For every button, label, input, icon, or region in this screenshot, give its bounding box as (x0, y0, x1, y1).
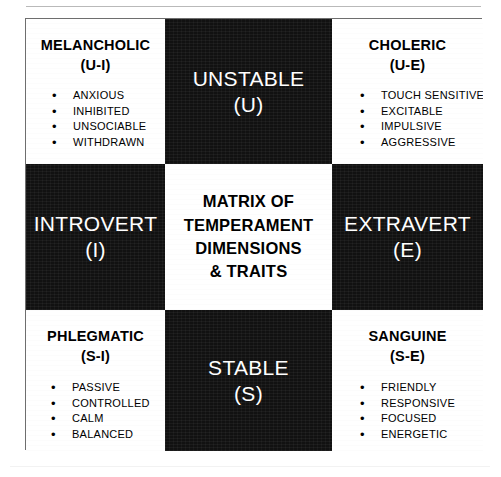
trait-label: RESPONSIVE (381, 397, 455, 409)
bullet-icon: • (360, 119, 365, 135)
unstable-label: UNSTABLE (193, 66, 305, 92)
bullet-icon: • (51, 411, 56, 427)
list-item: •FOCUSED (338, 411, 477, 427)
bullet-icon: • (51, 380, 56, 396)
center-title-text: MATRIX OF TEMPERAMENT DIMENSIONS & TRAIT… (184, 190, 314, 284)
melancholic-code: (U-I) (32, 56, 159, 76)
list-item: •CALM (32, 411, 159, 427)
introvert-code: (I) (85, 237, 106, 263)
trait-label: IMPULSIVE (381, 120, 442, 132)
scan-artifact-top-line (26, 6, 481, 7)
list-item: •RESPONSIVE (338, 396, 477, 412)
quadrant-sanguine: SANGUINE (S-E) •FRIENDLY •RESPONSIVE •FO… (332, 310, 483, 451)
melancholic-title: MELANCHOLIC (32, 36, 159, 56)
list-item: •PASSIVE (32, 380, 159, 396)
bullet-icon: • (360, 380, 365, 396)
phlegmatic-code: (S-I) (32, 347, 159, 367)
center-title-line: & TRAITS (184, 260, 314, 283)
bullet-icon: • (52, 135, 57, 151)
list-item: •FRIENDLY (338, 380, 477, 396)
trait-label: CALM (72, 412, 104, 424)
introvert-label: INTROVERT (34, 211, 158, 237)
bullet-icon: • (360, 427, 365, 443)
trait-label: FOCUSED (381, 412, 437, 424)
bullet-icon: • (52, 88, 57, 104)
axis-pole-extravert: EXTRAVERT (E) (332, 164, 483, 310)
bullet-icon: • (360, 135, 365, 151)
list-item: •INHIBITED (33, 104, 159, 120)
diagram-center-title: MATRIX OF TEMPERAMENT DIMENSIONS & TRAIT… (165, 164, 332, 310)
sanguine-title: SANGUINE (338, 327, 477, 347)
center-title-line: MATRIX OF (184, 190, 314, 213)
unstable-code: (U) (233, 92, 263, 118)
trait-label: CONTROLLED (72, 397, 150, 409)
scan-artifact-bottom-line (10, 466, 490, 467)
bullet-icon: • (52, 104, 57, 120)
list-item: •EXCITABLE (338, 104, 477, 120)
trait-label: WITHDRAWN (73, 136, 145, 148)
extravert-code: (E) (393, 237, 422, 263)
list-item: •BALANCED (32, 427, 159, 443)
temperament-matrix-diagram: MELANCHOLIC (U-I) •ANXIOUS •INHIBITED •U… (25, 18, 482, 450)
sanguine-trait-list: •FRIENDLY •RESPONSIVE •FOCUSED •ENERGETI… (338, 380, 477, 442)
list-item: •ENERGETIC (338, 427, 477, 443)
bullet-icon: • (360, 396, 365, 412)
trait-label: UNSOCIABLE (73, 120, 146, 132)
trait-label: BALANCED (72, 428, 133, 440)
trait-label: INHIBITED (73, 105, 130, 117)
bullet-icon: • (51, 427, 56, 443)
phlegmatic-title: PHLEGMATIC (32, 327, 159, 347)
extravert-label: EXTRAVERT (344, 211, 471, 237)
list-item: •ANXIOUS (33, 88, 159, 104)
trait-label: EXCITABLE (381, 105, 443, 117)
center-title-line: TEMPERAMENT (184, 214, 314, 237)
quadrant-phlegmatic: PHLEGMATIC (S-I) •PASSIVE •CONTROLLED •C… (26, 310, 165, 451)
quadrant-choleric: CHOLERIC (U-E) •TOUCH SENSITIVE •EXCITAB… (332, 19, 483, 164)
trait-label: PASSIVE (72, 381, 120, 393)
trait-label: TOUCH SENSITIVE (381, 89, 483, 101)
list-item: •TOUCH SENSITIVE (338, 88, 477, 104)
axis-pole-stable: STABLE (S) (165, 310, 332, 451)
list-item: •AGGRESSIVE (338, 135, 477, 151)
phlegmatic-trait-list: •PASSIVE •CONTROLLED •CALM •BALANCED (32, 380, 159, 442)
list-item: •IMPULSIVE (338, 119, 477, 135)
trait-label: ANXIOUS (73, 89, 124, 101)
stable-label: STABLE (208, 355, 289, 381)
bullet-icon: • (51, 396, 56, 412)
axis-pole-unstable: UNSTABLE (U) (165, 19, 332, 164)
sanguine-code: (S-E) (338, 347, 477, 367)
trait-label: ENERGETIC (381, 428, 447, 440)
stable-code: (S) (234, 381, 263, 407)
bullet-icon: • (360, 411, 365, 427)
list-item: •CONTROLLED (32, 396, 159, 412)
quadrant-melancholic: MELANCHOLIC (U-I) •ANXIOUS •INHIBITED •U… (26, 19, 165, 164)
axis-pole-introvert: INTROVERT (I) (26, 164, 165, 310)
choleric-code: (U-E) (338, 56, 477, 76)
matrix-grid: MELANCHOLIC (U-I) •ANXIOUS •INHIBITED •U… (26, 19, 481, 449)
list-item: •UNSOCIABLE (33, 119, 159, 135)
bullet-icon: • (360, 88, 365, 104)
center-title-line: DIMENSIONS (184, 237, 314, 260)
bullet-icon: • (52, 119, 57, 135)
trait-label: AGGRESSIVE (381, 136, 456, 148)
list-item: •WITHDRAWN (33, 135, 159, 151)
choleric-title: CHOLERIC (338, 36, 477, 56)
choleric-trait-list: •TOUCH SENSITIVE •EXCITABLE •IMPULSIVE •… (338, 88, 477, 150)
melancholic-trait-list: •ANXIOUS •INHIBITED •UNSOCIABLE •WITHDRA… (33, 88, 159, 150)
trait-label: FRIENDLY (381, 381, 437, 393)
bullet-icon: • (360, 104, 365, 120)
